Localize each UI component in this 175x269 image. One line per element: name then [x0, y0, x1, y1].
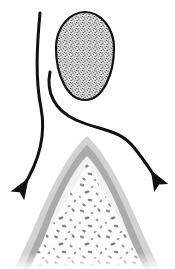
- egg-shape: [56, 12, 114, 100]
- diagram-canvas: [0, 0, 175, 269]
- bottom-fade: [0, 225, 175, 269]
- diagram-svg: [0, 0, 175, 269]
